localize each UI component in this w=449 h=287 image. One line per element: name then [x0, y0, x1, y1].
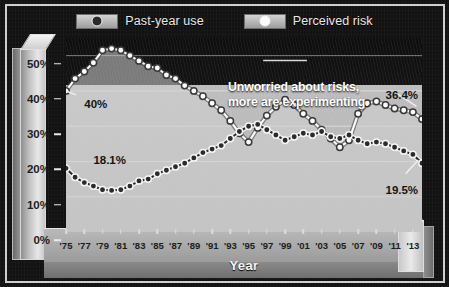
x-axis-ticks: '75'77'79'81'83'85'87'89'91'93'95'97'99'…: [66, 238, 422, 256]
x-axis-tick-label: '91: [206, 240, 219, 251]
series-perceived-risk-marker: [81, 68, 87, 74]
series-perceived-risk-marker: [72, 75, 78, 81]
chart-screenshot: Past-year use Perceived risk 0%10%: [0, 0, 449, 287]
chart-title-line-2: more are experimenting.: [228, 95, 408, 110]
series-past-year-use-marker: [154, 171, 160, 177]
x-axis-tick-label: '03: [315, 240, 328, 251]
y-axis-tick-label: 0%: [33, 234, 50, 246]
series-perceived-risk-marker: [136, 58, 142, 64]
x-axis-tick-label: '05: [333, 240, 346, 251]
y-axis-tick-mark: [54, 98, 61, 100]
series-past-year-use-marker: [172, 164, 178, 170]
y-axis-tick-mark: [54, 63, 61, 65]
series-past-year-use-marker: [346, 132, 352, 138]
series-past-year-use-marker: [337, 135, 343, 141]
series-past-year-use-marker: [309, 132, 315, 138]
series-perceived-risk-marker: [108, 45, 114, 51]
x-axis-tick-label: '77: [78, 240, 91, 251]
x-axis-tick-mark: [193, 229, 195, 234]
plot-area: [66, 38, 422, 232]
series-perceived-risk-marker: [191, 88, 197, 94]
series-past-year-use-marker: [364, 141, 370, 147]
series-past-year-use-marker: [66, 165, 69, 171]
x-axis-tick-label: '93: [224, 240, 237, 251]
x-axis-tick-label: '11: [388, 240, 400, 251]
x-axis-tick-label: '07: [352, 240, 365, 251]
x-axis-tick-label: '95: [242, 240, 255, 251]
legend-marker-past-year-use: [76, 14, 118, 29]
series-past-year-use-marker: [218, 142, 224, 148]
series-past-year-use-marker: [419, 160, 422, 166]
x-axis-tick-mark: [284, 229, 286, 234]
x-axis-tick-label: '79: [96, 240, 109, 251]
series-perceived-risk-marker: [172, 75, 178, 81]
x-axis-tick-mark: [394, 229, 396, 234]
series-past-year-use-marker: [236, 128, 242, 134]
legend-item-past-year-use[interactable]: Past-year use: [76, 14, 203, 29]
x-axis-tick-mark: [230, 229, 232, 234]
series-perceived-risk-marker: [337, 144, 343, 150]
series-perceived-risk-marker: [355, 111, 361, 117]
x-axis-tick-mark: [138, 229, 140, 234]
y-axis-tick-label: 10%: [27, 199, 50, 211]
y-axis-tick-label: 50%: [27, 58, 50, 70]
x-axis-tick-mark: [120, 229, 122, 234]
legend-item-perceived-risk[interactable]: Perceived risk: [244, 14, 373, 29]
series-past-year-use-marker: [182, 160, 188, 166]
series-perceived-risk-marker: [264, 112, 270, 118]
series-past-year-use-marker: [99, 187, 105, 193]
y-axis-tick-label: 40%: [27, 93, 50, 105]
corner-post-side-face: [423, 226, 434, 278]
y-axis-tick-mark: [54, 169, 61, 171]
chart-container: 0%10%20%30%40%50% '75'77'79'81'83'85'87'…: [10, 30, 440, 282]
series-perceived-risk-marker: [127, 52, 133, 58]
x-axis-tick-mark: [175, 229, 177, 234]
x-axis-tick-label: '99: [279, 240, 292, 251]
series-past-year-use-marker: [118, 187, 124, 193]
y-axis-tick-mark: [54, 204, 61, 206]
series-past-year-use-marker: [291, 134, 297, 140]
x-axis-tick-label: '97: [260, 240, 273, 251]
annotation-label: 40%: [84, 98, 107, 110]
x-axis-tick-mark: [248, 229, 250, 234]
series-perceived-risk-marker: [118, 47, 124, 53]
series-perceived-risk-marker: [227, 118, 233, 124]
series-past-year-use-marker: [108, 187, 114, 193]
series-past-year-use-marker: [382, 141, 388, 147]
series-perceived-risk-marker: [145, 63, 151, 69]
series-past-year-use-marker: [145, 176, 151, 182]
x-axis-tick-mark: [412, 229, 414, 234]
series-past-year-use-marker: [282, 137, 288, 143]
x-axis-tick-label: '81: [114, 240, 127, 251]
series-perceived-risk-marker: [245, 139, 251, 145]
y-axis-ticks: 0%10%20%30%40%50%: [10, 38, 62, 232]
legend-marker-perceived-risk: [244, 14, 286, 29]
series-past-year-use-marker: [328, 134, 334, 140]
x-axis-tick-mark: [321, 229, 323, 234]
series-perceived-risk-marker: [163, 72, 169, 78]
chart-title-line-1: Unworried about risks,: [228, 80, 408, 95]
x-axis-tick-mark: [266, 229, 268, 234]
x-axis-tick-mark: [339, 229, 341, 234]
series-past-year-use-marker: [81, 179, 87, 185]
x-axis-tick-mark: [211, 229, 213, 234]
x-axis-tick-label: '13: [406, 240, 419, 251]
series-past-year-use-marker: [227, 135, 233, 141]
y-axis-tick-label: 20%: [27, 163, 50, 175]
series-past-year-use-marker: [127, 183, 133, 189]
series-perceived-risk-marker: [200, 93, 206, 99]
series-past-year-use-marker: [273, 132, 279, 138]
series-past-year-use-marker: [318, 128, 324, 134]
x-axis-tick-label: '89: [187, 240, 200, 251]
series-past-year-use-marker: [200, 149, 206, 155]
legend-label-perceived-risk: Perceived risk: [293, 14, 373, 28]
series-perceived-risk-marker: [309, 118, 315, 124]
series-perceived-risk-marker: [300, 111, 306, 117]
series-past-year-use-marker: [72, 174, 78, 180]
y-axis-tick-mark: [54, 133, 61, 135]
x-axis-title: Year: [66, 258, 422, 273]
plot-svg: [66, 38, 422, 232]
series-past-year-use-marker: [391, 144, 397, 150]
x-axis-tick-label: '83: [133, 240, 146, 251]
series-past-year-use-marker: [191, 155, 197, 161]
